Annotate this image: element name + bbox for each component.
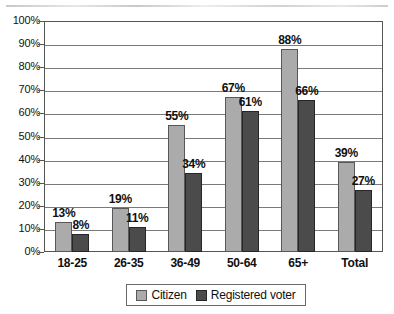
bar-value-label: 88% bbox=[275, 34, 305, 46]
bar-value-label: 34% bbox=[179, 158, 209, 170]
legend-label-registered-voter: Registered voter bbox=[211, 289, 296, 301]
x-axis-tick-label: Total bbox=[327, 256, 384, 270]
legend-label-citizen: Citizen bbox=[151, 289, 186, 301]
chart-legend: Citizen Registered voter bbox=[126, 284, 306, 306]
y-axis-tick-label: 70% bbox=[0, 84, 40, 95]
y-axis-tick-label: 60% bbox=[0, 107, 40, 118]
bar-value-label: 67% bbox=[218, 82, 248, 94]
bar-citizen[interactable] bbox=[225, 97, 242, 252]
y-axis-tick-label: 90% bbox=[0, 38, 40, 49]
y-axis-tick-mark bbox=[38, 252, 44, 253]
bar-value-label: 66% bbox=[292, 85, 322, 97]
legend-entry-registered-voter[interactable]: Registered voter bbox=[196, 289, 296, 301]
x-axis-tick-label: 36-49 bbox=[157, 256, 214, 270]
bar-registered-voter[interactable] bbox=[298, 100, 315, 252]
bar-value-label: 19% bbox=[105, 193, 135, 205]
bar-citizen[interactable] bbox=[281, 49, 298, 252]
bar-value-label: 61% bbox=[235, 96, 265, 108]
x-axis-tick-label: 65+ bbox=[270, 256, 327, 270]
y-axis-tick-label: 20% bbox=[0, 200, 40, 211]
y-axis-tick-label: 40% bbox=[0, 154, 40, 165]
bar-registered-voter[interactable] bbox=[129, 227, 146, 252]
legend-entry-citizen[interactable]: Citizen bbox=[136, 289, 186, 301]
bar-chart: 100%90%80%70%60%50%40%30%20%10%0% 13%8%1… bbox=[0, 0, 394, 314]
bar-citizen[interactable] bbox=[168, 125, 185, 252]
bar-series-layer: 13%8%19%11%55%34%67%61%88%66%39%27% bbox=[44, 21, 383, 252]
x-axis-tick-label: 50-64 bbox=[214, 256, 271, 270]
x-axis-tick-label: 26-35 bbox=[101, 256, 158, 270]
bar-value-label: 8% bbox=[66, 219, 96, 231]
bar-value-label: 11% bbox=[122, 212, 152, 224]
bar-value-label: 55% bbox=[162, 110, 192, 122]
bar-registered-voter[interactable] bbox=[72, 234, 89, 252]
y-axis-tick-label: 100% bbox=[0, 15, 40, 26]
bar-value-label: 27% bbox=[348, 175, 378, 187]
y-axis-tick-label: 50% bbox=[0, 131, 40, 142]
y-axis-tick-label: 10% bbox=[0, 223, 40, 234]
bar-registered-voter[interactable] bbox=[355, 190, 372, 252]
y-axis-tick-label: 80% bbox=[0, 61, 40, 72]
bar-registered-voter[interactable] bbox=[185, 173, 202, 252]
y-axis-tick-label: 0% bbox=[0, 246, 40, 257]
bar-value-label: 39% bbox=[331, 147, 361, 159]
x-axis-tick-label: 18-25 bbox=[44, 256, 101, 270]
registered-voter-swatch-icon bbox=[196, 290, 207, 301]
citizen-swatch-icon bbox=[136, 290, 147, 301]
bar-registered-voter[interactable] bbox=[242, 111, 259, 252]
y-axis-tick-label: 30% bbox=[0, 177, 40, 188]
